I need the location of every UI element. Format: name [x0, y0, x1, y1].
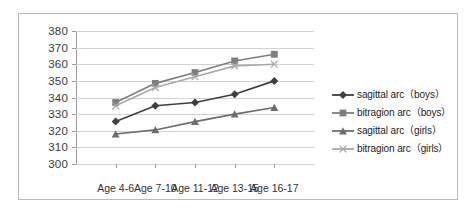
y-axis-tick-mark — [72, 164, 76, 165]
chart-legend: sagittal arc（boys）bitragion arc（boys）sag… — [331, 84, 461, 156]
y-axis-tick-label: 310 — [48, 141, 68, 153]
y-axis-tick-label: 380 — [48, 25, 68, 37]
x-axis-tick-mark — [274, 164, 275, 168]
data-point-diamond — [339, 91, 347, 99]
legend-marker-diamond-icon — [331, 87, 355, 99]
data-point-diamond — [270, 77, 278, 85]
data-point-square — [340, 110, 347, 117]
legend-item-label: bitragion arc（boys） — [357, 104, 451, 119]
x-axis-tick-label: Age 4-6 — [97, 182, 134, 194]
data-point-diamond — [231, 90, 239, 98]
x-axis-tick-label: Age 16-17 — [250, 182, 298, 194]
y-axis-tick-label: 370 — [48, 42, 68, 54]
data-point-square — [271, 51, 278, 58]
data-series-layer — [76, 31, 314, 164]
y-axis-tick-label: 350 — [48, 75, 68, 87]
legend-marker-square-icon — [331, 105, 355, 117]
y-axis-tick-label: 320 — [48, 125, 68, 137]
x-axis-tick-mark — [235, 164, 236, 168]
y-axis-tick-label: 300 — [48, 158, 68, 170]
y-axis-tick-label: 330 — [48, 108, 68, 120]
legend-item[interactable]: bitragion arc（boys） — [331, 102, 461, 120]
y-axis-tick-label: 340 — [48, 92, 68, 104]
legend-item-label: bitragion arc（girls） — [357, 140, 448, 155]
plot-area: 300310320330340350360370380 Age 4-6Age 7… — [76, 31, 314, 164]
legend-item-label: sagittal arc（boys） — [357, 86, 445, 101]
x-axis-tick-mark — [155, 164, 156, 168]
data-point-diamond — [112, 118, 120, 126]
legend-item[interactable]: sagittal arc（girls） — [331, 120, 461, 138]
x-axis-tick-mark — [195, 164, 196, 168]
chart-figure: 300310320330340350360370380 Age 4-6Age 7… — [18, 13, 458, 200]
legend-marker-x-icon — [331, 141, 355, 153]
legend-item[interactable]: sagittal arc（boys） — [331, 84, 461, 102]
x-axis-tick-mark — [116, 164, 117, 168]
legend-item[interactable]: bitragion arc（girls） — [331, 138, 461, 156]
legend-marker-triangle-icon — [331, 123, 355, 135]
legend-item-label: sagittal arc（girls） — [357, 122, 442, 137]
y-axis-tick-label: 360 — [48, 58, 68, 70]
data-point-diamond — [151, 102, 159, 110]
data-point-diamond — [191, 98, 199, 106]
